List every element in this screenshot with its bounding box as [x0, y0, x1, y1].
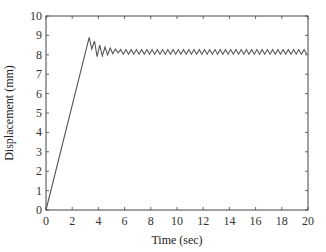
y-tick-label: 7 [36, 67, 42, 81]
y-tick-label: 2 [36, 164, 42, 178]
x-tick-label: 16 [250, 214, 262, 228]
y-tick-label: 10 [30, 9, 42, 23]
y-tick-label: 1 [36, 184, 42, 198]
plot-border [46, 16, 308, 210]
y-tick-label: 6 [36, 87, 42, 101]
y-tick-label: 3 [36, 145, 42, 159]
x-tick-label: 4 [95, 214, 101, 228]
x-axis-title: Time (sec) [151, 233, 202, 247]
x-tick-label: 0 [43, 214, 49, 228]
x-tick-label: 8 [148, 214, 154, 228]
y-tick-label: 4 [36, 125, 42, 139]
y-tick-label: 5 [36, 106, 42, 120]
x-tick-label: 18 [276, 214, 288, 228]
displacement-line [46, 37, 307, 210]
x-tick-label: 14 [223, 214, 235, 228]
x-tick-label: 2 [69, 214, 75, 228]
y-tick-label: 0 [36, 203, 42, 217]
x-axis-ticks: 02468101214161820 [43, 16, 314, 228]
x-tick-label: 12 [197, 214, 209, 228]
x-tick-label: 10 [171, 214, 183, 228]
displacement-chart: 02468101214161820 012345678910 Time (sec… [0, 0, 326, 252]
y-tick-label: 9 [36, 28, 42, 42]
x-tick-label: 20 [302, 214, 314, 228]
y-tick-label: 8 [36, 48, 42, 62]
y-axis-ticks: 012345678910 [30, 9, 308, 217]
plot-frame [46, 16, 308, 210]
x-tick-label: 6 [122, 214, 128, 228]
y-axis-title: Displacement (mm) [2, 65, 16, 161]
